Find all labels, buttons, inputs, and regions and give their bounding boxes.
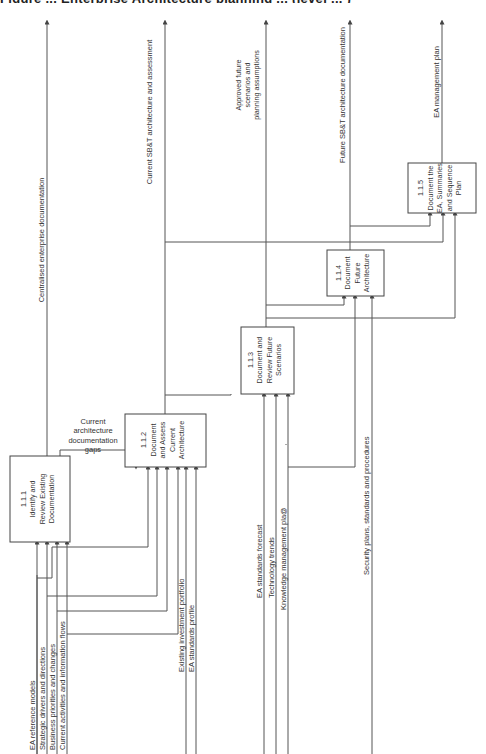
input-arrows xyxy=(37,296,372,754)
future-to-115-connector xyxy=(350,213,430,226)
current-to-115-connector xyxy=(165,213,443,242)
input-label-business: Business priorities and changes xyxy=(48,644,57,750)
input-label-knowledge-mgmt: Knowledge management pla@ xyxy=(279,507,288,610)
output-label-ea-plan: EA management plan xyxy=(432,46,441,118)
output-label-approved-scenarios: Approved futurescenarios andplanning ass… xyxy=(234,50,261,120)
input-label-security-plans: Security plans, standards and procedures xyxy=(362,436,371,575)
input-label-ea-reference: EA reference models xyxy=(28,680,37,750)
activity-box-113[interactable]: 1.1.3Document andReview FutureScenarios xyxy=(241,327,294,394)
input-label-existing-investment: Existing investment portfolio xyxy=(177,579,186,672)
input-label-technology-trends: Technology trends xyxy=(267,537,276,598)
activity-box-114[interactable]: 1.1.4DocumentFutureArchitecture xyxy=(327,250,384,296)
input-label-current-activities: Current activities and information flows xyxy=(58,621,67,750)
output-label-future-sbt: Future SB&T architecture documentation xyxy=(338,27,347,163)
input-label-ea-standards-profile: EA standards profile xyxy=(187,605,196,672)
output-label-centralised: Centralised enterprise documentation xyxy=(37,178,46,303)
intermediate-label-gaps: Currentarchitecturedocumentationgaps xyxy=(68,417,117,455)
output-label-current-sbt: Current SB&T architecture and assessment xyxy=(145,39,154,184)
current-to-113-connector xyxy=(165,394,231,395)
activity-box-112[interactable]: 1.1.2Documentand AssessCurrentArchitectu… xyxy=(125,414,206,467)
input-label-strategic: Strategic drivers and directions xyxy=(38,647,47,750)
activity-box-111[interactable]: 1.1.1Identify andReview ExistingDocument… xyxy=(10,456,70,542)
scenarios-to-114-connector xyxy=(266,296,344,305)
activity-box-115[interactable]: 1.1.5Document theEA, Summariesand Sequen… xyxy=(408,163,476,213)
input-label-ea-standards-forecast: EA standards forecast xyxy=(255,524,264,598)
idef0-diagram: 1.1.1Identify andReview ExistingDocument… xyxy=(0,0,486,754)
